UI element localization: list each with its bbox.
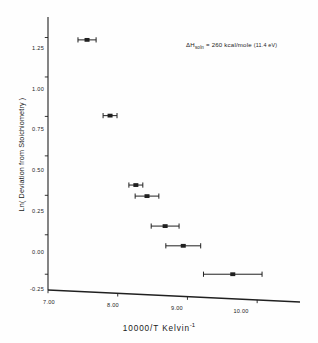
data-point (203, 272, 262, 277)
data-point-marker (163, 224, 168, 228)
x-axis-line (48, 290, 300, 302)
data-point-marker (181, 244, 186, 248)
data-point (151, 223, 179, 228)
data-point-marker (108, 114, 113, 118)
data-series (78, 37, 262, 277)
data-point-marker (230, 272, 235, 276)
data-point-marker (85, 38, 90, 42)
data-point (166, 243, 201, 248)
data-point-marker (133, 183, 138, 187)
data-point (78, 37, 96, 42)
data-point (135, 194, 159, 199)
data-point (129, 182, 143, 187)
plot-area (0, 0, 318, 343)
figure-canvas: Ln( Deviation from Stoichiometry ) 1.25 … (0, 0, 318, 343)
data-point-marker (145, 194, 150, 198)
data-point (103, 113, 117, 118)
